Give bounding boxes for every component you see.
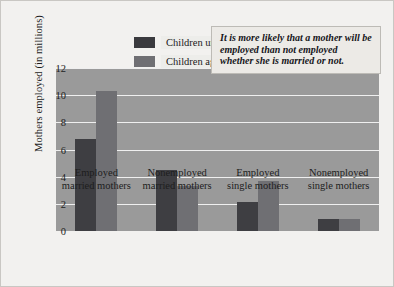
plot-area xyxy=(56,68,379,231)
bar xyxy=(339,219,360,231)
bar xyxy=(237,202,258,231)
y-axis-tick-label: 2 xyxy=(40,198,66,209)
legend-swatch-icon xyxy=(134,37,155,48)
y-axis-tick-label: 8 xyxy=(40,117,66,128)
bar xyxy=(96,91,117,231)
bar xyxy=(318,219,339,231)
legend-swatch-icon xyxy=(134,56,155,67)
y-axis-tick-label: 6 xyxy=(40,144,66,155)
y-axis-tick-label: 10 xyxy=(40,90,66,101)
chart-figure: Mothers employed (in millions) Children … xyxy=(0,0,394,287)
y-axis-tick-label: 0 xyxy=(40,226,66,237)
y-axis-title: Mothers employed (in millions) xyxy=(33,2,44,165)
bar xyxy=(177,186,198,232)
x-axis-category-label: Nonemployed single mothers xyxy=(290,167,387,192)
y-axis-tick-label: 12 xyxy=(40,63,66,74)
callout-annotation: It is more likely that a mother will be … xyxy=(211,26,381,74)
